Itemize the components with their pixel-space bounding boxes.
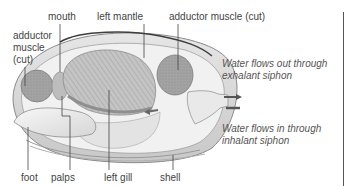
annotation-inhalant-2: inhalant siphon bbox=[222, 135, 289, 147]
label-palps: palps bbox=[51, 172, 75, 183]
label-mouth: mouth bbox=[48, 11, 76, 22]
label-adductor-left-3: (cut) bbox=[13, 54, 33, 65]
annotation-exhalant-2: exhalant siphon bbox=[222, 70, 292, 82]
adductor-muscle-left bbox=[21, 70, 53, 102]
label-adductor-left-2: muscle bbox=[13, 42, 45, 53]
label-left-gill: left gill bbox=[104, 172, 132, 183]
right-edge-rule bbox=[343, 12, 344, 186]
label-adductor-left-1: adductor bbox=[13, 30, 52, 41]
label-left-mantle: left mantle bbox=[97, 11, 143, 22]
adductor-muscle-right bbox=[157, 55, 193, 95]
annotation-exhalant-1: Water flows out through bbox=[222, 58, 327, 70]
label-shell: shell bbox=[160, 172, 181, 183]
label-adductor-muscle-right: adductor muscle (cut) bbox=[169, 11, 265, 22]
label-foot: foot bbox=[21, 172, 38, 183]
annotation-inhalant-1: Water flows in through bbox=[222, 123, 321, 135]
clam-illustration bbox=[0, 0, 345, 186]
